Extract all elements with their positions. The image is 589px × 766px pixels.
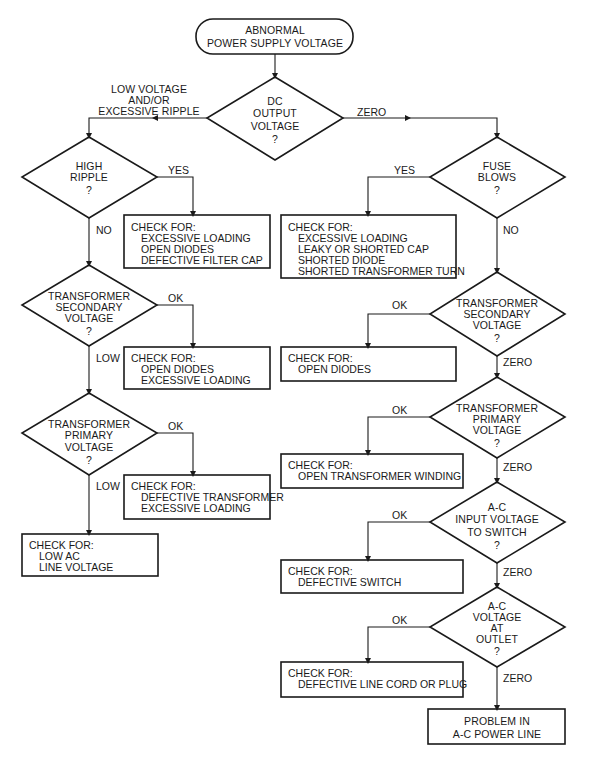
- label-fuse-no: NO: [503, 225, 519, 236]
- arrowhead-right: [405, 115, 411, 121]
- check-item: OPEN TRANSFORMER WINDING: [288, 471, 461, 482]
- label-lpri-ok: OK: [168, 421, 183, 432]
- label-outlet-zero: ZERO: [503, 673, 532, 684]
- ac-input-line4: ?: [494, 540, 500, 551]
- right-primary-line3: VOLTAGE: [473, 425, 522, 436]
- check-item: LINE VOLTAGE: [29, 562, 113, 573]
- connector-dc-low: [89, 118, 207, 136]
- connector-rpri-ok: [368, 417, 430, 453]
- check-box-lpri: CHECK FOR: DEFECTIVE TRANSFORMER EXCESSI…: [131, 481, 284, 514]
- dc-output-line1: DC: [267, 96, 282, 107]
- check-item: DEFECTIVE LINE CORD OR PLUG: [288, 679, 467, 690]
- connector-lsec-ok: [157, 305, 193, 346]
- label-fuse-yes: YES: [394, 165, 415, 176]
- check-box-acin: CHECK FOR: DEFECTIVE SWITCH: [288, 566, 401, 588]
- check-item: EXCESSIVE LOADING: [131, 375, 251, 386]
- check-box-lsec: CHECK FOR: OPEN DIODES EXCESSIVE LOADING: [131, 353, 251, 386]
- ac-input-line3: TO SWITCH: [467, 527, 527, 538]
- dc-output-line2: OUTPUT: [253, 108, 297, 119]
- label-acin-zero: ZERO: [503, 567, 532, 578]
- right-secondary-line3: VOLTAGE: [473, 320, 522, 331]
- label-acin-ok: OK: [392, 510, 407, 521]
- label-rpri-zero: ZERO: [503, 462, 532, 473]
- check-box-low-ac: CHECK FOR: LOW AC LINE VOLTAGE: [29, 540, 113, 573]
- label-lpri-low: LOW: [96, 481, 120, 492]
- check-item: DEFECTIVE SWITCH: [288, 577, 401, 588]
- connector-dc-zero: [343, 118, 497, 136]
- check-box-rpri: CHECK FOR: OPEN TRANSFORMER WINDING: [288, 460, 461, 482]
- label-outlet-ok: OK: [392, 615, 407, 626]
- connector-lpri-ok: [157, 433, 193, 474]
- fuse-blows-line2: BLOWS: [478, 172, 516, 183]
- high-ripple-line3: ?: [86, 185, 92, 196]
- connector-acin-ok: [368, 522, 430, 559]
- check-item: DEFECTIVE FILTER CAP: [131, 255, 263, 266]
- label-rsec-ok: OK: [392, 300, 407, 311]
- left-secondary-line4: ?: [86, 326, 92, 337]
- left-primary-line2: PRIMARY: [65, 430, 113, 441]
- check-box-fuse: CHECK FOR: EXCESSIVE LOADING LEAKY OR SH…: [288, 222, 465, 277]
- label-rsec-zero: ZERO: [503, 357, 532, 368]
- right-primary-line4: ?: [494, 438, 500, 449]
- check-item: OPEN DIODES: [288, 364, 371, 375]
- dc-output-line4: ?: [272, 134, 278, 145]
- check-box-rsec: CHECK FOR: OPEN DIODES: [288, 353, 371, 375]
- dc-output-line3: VOLTAGE: [251, 121, 300, 132]
- label-rpri-ok: OK: [392, 405, 407, 416]
- label-ripple-yes: YES: [168, 165, 189, 176]
- ac-outlet-line4: OUTLET: [476, 634, 518, 645]
- fuse-blows-line3: ?: [494, 185, 500, 196]
- ac-outlet-line5: ?: [494, 646, 500, 657]
- label-ripple-no: NO: [96, 225, 112, 236]
- end-box-line2: A-C POWER LINE: [453, 729, 541, 740]
- ac-input-line2: INPUT VOLTAGE: [455, 514, 539, 525]
- connector-rsec-ok: [368, 314, 430, 346]
- connector-outlet-ok: [368, 627, 430, 661]
- left-primary-line3: VOLTAGE: [65, 442, 114, 453]
- start-terminal-line2: POWER SUPPLY VOLTAGE: [207, 38, 343, 49]
- connector-fuse-yes: [368, 177, 430, 214]
- high-ripple-line2: RIPPLE: [70, 172, 108, 183]
- check-item: EXCESSIVE LOADING: [131, 503, 284, 514]
- label-low-voltage-3: EXCESSIVE RIPPLE: [98, 106, 199, 117]
- left-primary-line4: ?: [86, 455, 92, 466]
- check-item: SHORTED TRANSFORMER TURN: [288, 266, 465, 277]
- start-terminal-line1: ABNORMAL: [245, 25, 305, 36]
- check-box-outlet: CHECK FOR: DEFECTIVE LINE CORD OR PLUG: [288, 668, 467, 690]
- connector-ripple-yes: [157, 177, 193, 214]
- check-box-ripple: CHECK FOR: EXCESSIVE LOADING OPEN DIODES…: [131, 222, 263, 266]
- end-box-line1: PROBLEM IN: [464, 716, 530, 727]
- right-secondary-line4: ?: [494, 333, 500, 344]
- label-lsec-low: LOW: [96, 353, 120, 364]
- label-lsec-ok: OK: [168, 293, 183, 304]
- ac-input-line1: A-C: [488, 502, 506, 513]
- label-zero-dc: ZERO: [357, 107, 386, 118]
- left-secondary-line3: VOLTAGE: [65, 313, 114, 324]
